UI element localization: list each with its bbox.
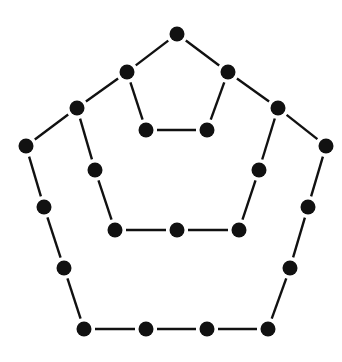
node-c xyxy=(139,123,154,138)
node-d xyxy=(200,123,215,138)
edge-o3-o5 xyxy=(47,217,60,257)
node-m7 xyxy=(232,223,247,238)
node-m1 xyxy=(70,101,85,116)
node-o6 xyxy=(283,261,298,276)
node-m2 xyxy=(271,101,286,116)
node-a xyxy=(120,65,135,80)
node-m6 xyxy=(170,223,185,238)
edge-o2-o4 xyxy=(311,157,323,197)
edge-o6-o10 xyxy=(272,278,287,318)
node-o5 xyxy=(57,261,72,276)
node-o2 xyxy=(319,139,334,154)
node-o9 xyxy=(200,322,215,337)
node-o8 xyxy=(139,322,154,337)
edge-m1-m3 xyxy=(80,119,92,160)
node-o3 xyxy=(37,200,52,215)
node-o7 xyxy=(77,322,92,337)
node-t xyxy=(170,27,185,42)
node-m3 xyxy=(88,163,103,178)
edge-m2-m4 xyxy=(262,119,275,160)
node-group xyxy=(19,27,334,337)
edge-group xyxy=(29,41,323,329)
node-m4 xyxy=(252,163,267,178)
edge-m1-o1 xyxy=(35,115,68,140)
edge-o4-o6 xyxy=(293,218,305,258)
edge-t-b xyxy=(186,41,219,66)
node-o1 xyxy=(19,139,34,154)
edge-b-d xyxy=(211,82,225,119)
node-o10 xyxy=(261,322,276,337)
edge-o5-o7 xyxy=(67,278,80,318)
edge-m2-o2 xyxy=(287,115,318,139)
node-m5 xyxy=(108,223,123,238)
node-o4 xyxy=(301,200,316,215)
edge-a-m1 xyxy=(86,78,118,101)
diagram-svg xyxy=(0,0,342,362)
edge-o1-o3 xyxy=(29,157,41,197)
edge-m4-m7 xyxy=(242,180,255,219)
node-b xyxy=(221,65,236,80)
edge-m3-m5 xyxy=(98,180,111,219)
edge-b-m2 xyxy=(237,78,269,101)
edge-a-c xyxy=(130,82,142,119)
edge-t-a xyxy=(136,41,168,66)
nested-pentagon-diagram xyxy=(0,0,342,362)
